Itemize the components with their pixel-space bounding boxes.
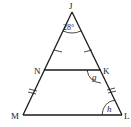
vertex-label-k: K bbox=[103, 66, 110, 76]
tick-jn bbox=[54, 50, 62, 52]
segment-jl bbox=[72, 12, 122, 115]
triangle-diagram: J N K M L 28° g h bbox=[0, 0, 131, 127]
tick-nm-2 bbox=[28, 92, 36, 94]
angle-label-h: h bbox=[107, 104, 112, 114]
angle-label-g: g bbox=[92, 72, 97, 82]
vertex-label-n: N bbox=[34, 66, 41, 76]
vertex-label-m: M bbox=[11, 111, 19, 121]
tick-kl-2 bbox=[108, 91, 116, 93]
angle-label-j: 28° bbox=[63, 23, 74, 32]
vertex-label-l: L bbox=[124, 111, 130, 121]
tick-kl-1 bbox=[107, 88, 115, 90]
vertex-label-j: J bbox=[69, 1, 73, 11]
